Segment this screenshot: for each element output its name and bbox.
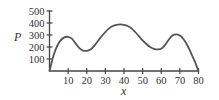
y-tick-label: 400	[29, 18, 45, 29]
x-tick-label: 10	[63, 75, 74, 86]
x-tick-label: 80	[193, 75, 204, 86]
y-tick-label: 300	[29, 30, 45, 41]
x-tick-label: 60	[156, 75, 167, 86]
x-tick-label: 30	[100, 75, 111, 86]
data-line-p	[50, 24, 199, 71]
chart-axes	[49, 10, 199, 71]
x-tick-label: 20	[82, 75, 93, 86]
line-chart: 100200300400500 1020304050607080 P x	[0, 0, 219, 100]
y-tick-label: 200	[29, 42, 45, 53]
y-tick-label: 100	[29, 54, 45, 65]
y-tick-label: 500	[29, 6, 45, 17]
x-tick-label: 70	[175, 75, 186, 86]
y-axis-label: P	[13, 30, 22, 44]
x-tick-label: 50	[137, 75, 148, 86]
x-axis-label: x	[120, 84, 127, 98]
